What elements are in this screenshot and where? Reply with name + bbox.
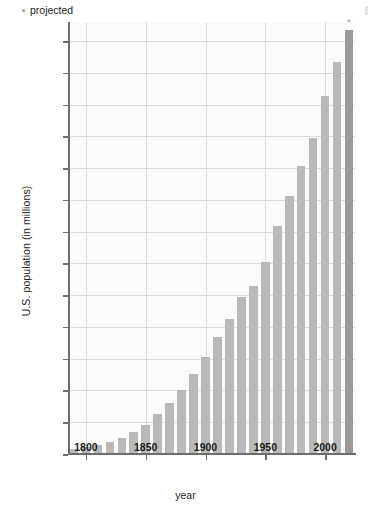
bar (213, 337, 222, 454)
x-tick-mark (265, 454, 267, 460)
bar (237, 297, 246, 454)
gridline-horizontal (68, 41, 355, 42)
bar (321, 96, 330, 454)
y-axis-line (68, 22, 70, 454)
bar (225, 319, 234, 454)
x-tick-mark (146, 454, 148, 460)
bar (249, 286, 258, 454)
gridline-vertical (146, 22, 147, 454)
legend-label-projected: projected (30, 4, 73, 16)
bar (285, 196, 294, 454)
x-tick-label: 1850 (123, 441, 169, 453)
bar-projected (345, 30, 354, 454)
x-tick-mark (86, 454, 88, 460)
gridline-vertical (86, 22, 87, 454)
x-tick-label: 1950 (242, 441, 288, 453)
bar (273, 226, 282, 454)
x-tick-mark (325, 454, 327, 460)
x-tick-label: 2000 (302, 441, 348, 453)
y-axis-title: U.S. population (in millions) (20, 151, 32, 351)
projected-asterisk-icon: * (347, 19, 351, 25)
gridline-horizontal (68, 105, 355, 106)
legend: projected (22, 4, 73, 16)
projected-marker-icon (22, 9, 25, 12)
x-axis-title: year (0, 489, 371, 501)
bar (261, 262, 270, 454)
bar (201, 357, 210, 454)
x-axis-line (68, 453, 356, 455)
x-tick-label: 1900 (183, 441, 229, 453)
gridline-horizontal (68, 73, 355, 74)
x-tick-mark (206, 454, 208, 460)
bar (333, 62, 342, 454)
population-bar-chart: U.S. population (in millions) year * pro… (0, 0, 371, 510)
bar (297, 166, 306, 454)
x-tick-label: 1800 (63, 441, 109, 453)
plot-area: * (68, 22, 355, 454)
corner-artifact (365, 6, 368, 15)
bar (309, 138, 318, 454)
